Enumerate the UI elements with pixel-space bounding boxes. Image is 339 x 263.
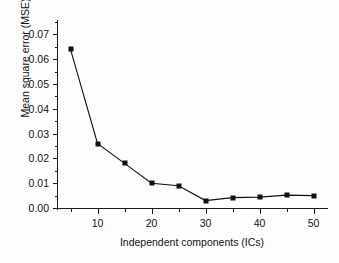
data-point-marker [284,193,289,198]
y-tick-label: 0.04 [29,104,49,115]
y-tick-mark [53,109,58,110]
data-point-marker [230,195,235,200]
x-tick-label: 10 [92,218,104,229]
y-tick-label: 0.02 [29,153,49,164]
data-point-marker [176,183,181,188]
x-tick-mark [98,209,99,214]
y-tick-label: 0.00 [29,203,49,214]
y-tick-label: 0.07 [29,29,49,40]
x-tick-mark [206,209,207,214]
x-minor-tick-mark [125,209,126,212]
y-tick-label: 0.06 [29,54,49,65]
y-minor-tick-mark [55,72,58,73]
y-axis-title: Mean square error (MSE) [19,0,31,143]
y-tick-mark [53,84,58,85]
y-tick-label: 0.03 [29,128,49,139]
x-axis-title: Independent components (ICs) [57,236,327,248]
x-minor-tick-mark [287,209,288,212]
x-tick-mark [314,209,315,214]
chart-figure: 0.000.010.020.030.040.050.060.07 1020304… [0,0,339,263]
x-tick-mark [152,209,153,214]
y-minor-tick-mark [55,96,58,97]
x-tick-mark [260,209,261,214]
y-tick-mark [53,34,58,35]
x-tick-label: 50 [308,218,320,229]
y-minor-tick-mark [55,171,58,172]
x-minor-tick-mark [71,209,72,212]
y-minor-tick-mark [55,22,58,23]
x-tick-label: 40 [254,218,266,229]
y-tick-label: 0.01 [29,178,49,189]
y-tick-mark [53,158,58,159]
y-minor-tick-mark [55,47,58,48]
y-tick-mark [53,59,58,60]
data-point-marker [311,193,316,198]
y-minor-tick-mark [55,196,58,197]
data-point-marker [95,141,100,146]
data-point-marker [257,195,262,200]
y-tick-mark [53,183,58,184]
y-tick-mark [53,134,58,135]
y-tick-label: 0.05 [29,79,49,90]
y-minor-tick-mark [55,121,58,122]
data-point-marker [122,161,127,166]
x-minor-tick-mark [179,209,180,212]
y-minor-tick-mark [55,146,58,147]
x-minor-tick-mark [233,209,234,212]
x-tick-label: 20 [146,218,158,229]
data-point-marker [68,47,73,52]
x-axis-ticks: 1020304050 [55,209,328,216]
data-point-marker [203,198,208,203]
x-tick-label: 30 [200,218,212,229]
data-point-marker [149,181,154,186]
